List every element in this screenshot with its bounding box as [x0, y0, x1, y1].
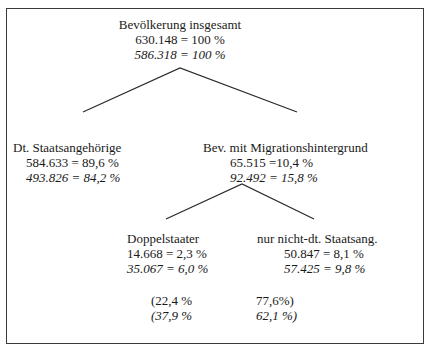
node-value-secondary: 57.425 = 9,8 % — [257, 261, 378, 276]
migration-branch-lines — [166, 184, 314, 219]
node-foreign-only: nur nicht-dt. Staatsang. 50.847 = 8,1 % … — [257, 231, 378, 276]
node-migration-background: Bev. mit Migrationshintergrund 65.515 =1… — [203, 140, 368, 185]
node-label: Dt. Staatsangehörige — [13, 140, 121, 155]
node-value-secondary: 92.492 = 15,8 % — [203, 170, 368, 185]
node-value-primary: 65.515 =10,4 % — [203, 155, 368, 170]
node-label: Bev. mit Migrationshintergrund — [203, 140, 368, 155]
node-value-primary: 584.633 = 89,6 % — [13, 155, 121, 170]
node-label: nur nicht-dt. Staatsang. — [257, 231, 378, 246]
share-dual: (22,4 % (37,9 % — [151, 293, 192, 323]
node-value-primary: 14.668 = 2,3 % — [127, 246, 208, 261]
root-branch-lines — [83, 68, 297, 112]
node-value-secondary: 586.318 = 100 % — [100, 47, 260, 62]
node-value-primary: 630.148 = 100 % — [100, 32, 260, 47]
node-german-citizens: Dt. Staatsangehörige 584.633 = 89,6 % 49… — [13, 140, 121, 185]
share-foreign: 77,6%) 62,1 %) — [256, 293, 297, 323]
node-total-population: Bevölkerung insgesamt 630.148 = 100 % 58… — [100, 17, 260, 62]
share-value-primary: 77,6%) — [256, 293, 297, 308]
node-label: Doppelstaater — [127, 231, 208, 246]
node-value-secondary: 35.067 = 6,0 % — [127, 261, 208, 276]
node-label: Bevölkerung insgesamt — [100, 17, 260, 32]
share-value-primary: (22,4 % — [151, 293, 192, 308]
node-dual-citizens: Doppelstaater 14.668 = 2,3 % 35.067 = 6,… — [127, 231, 208, 276]
node-value-secondary: 493.826 = 84,2 % — [13, 170, 121, 185]
node-value-primary: 50.847 = 8,1 % — [257, 246, 378, 261]
share-value-secondary: 62,1 %) — [256, 308, 297, 323]
share-value-secondary: (37,9 % — [151, 308, 192, 323]
